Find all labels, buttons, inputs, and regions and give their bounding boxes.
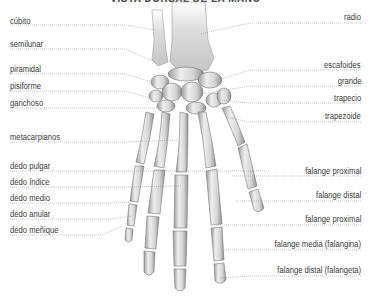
finger-middle <box>173 175 188 291</box>
hand-skeleton-illustration <box>0 0 371 296</box>
label-left-2: piramidal <box>10 64 41 74</box>
finger-pinky <box>125 166 144 242</box>
leader-line <box>220 276 361 278</box>
leader-line <box>10 91 150 98</box>
label-right-8: falange media (falangina) <box>275 239 361 249</box>
leader-line <box>200 23 361 34</box>
label-right-4: trapezoide <box>325 111 361 121</box>
label-right-5: falange proximal <box>305 166 361 176</box>
label-left-9: dedo anular <box>10 209 50 219</box>
label-left-0: cúbito <box>10 16 30 26</box>
label-left-3: pisiforme <box>10 81 41 91</box>
label-right-7: falange proximal <box>305 214 361 224</box>
label-left-8: dedo medio <box>10 193 50 203</box>
label-right-6: falange distal <box>316 190 361 200</box>
label-right-3: trapecio <box>334 93 361 103</box>
label-left-5: metacarpianos <box>10 132 60 142</box>
label-left-7: dedo índice <box>10 177 50 187</box>
finger-index <box>206 169 226 283</box>
carpal-bones <box>149 67 231 114</box>
label-right-0: radio <box>344 12 361 22</box>
label-right-2: grande <box>337 76 361 86</box>
label-left-6: dedo pulgar <box>10 161 50 171</box>
radius-bone <box>170 2 214 72</box>
finger-thumb <box>238 144 264 212</box>
leader-line <box>10 49 155 62</box>
label-right-1: escafoides <box>324 60 361 70</box>
label-left-1: semilunar <box>10 39 43 49</box>
leader-line <box>10 25 155 30</box>
label-left-4: ganchoso <box>10 98 43 108</box>
finger-ring <box>144 170 165 275</box>
metacarpal-bones <box>136 106 245 172</box>
label-right-9: falange distal (falangeta) <box>277 265 361 275</box>
label-left-10: dedo meñique <box>10 225 59 235</box>
ulna-bone <box>152 10 168 66</box>
forearm-bones <box>152 2 214 72</box>
